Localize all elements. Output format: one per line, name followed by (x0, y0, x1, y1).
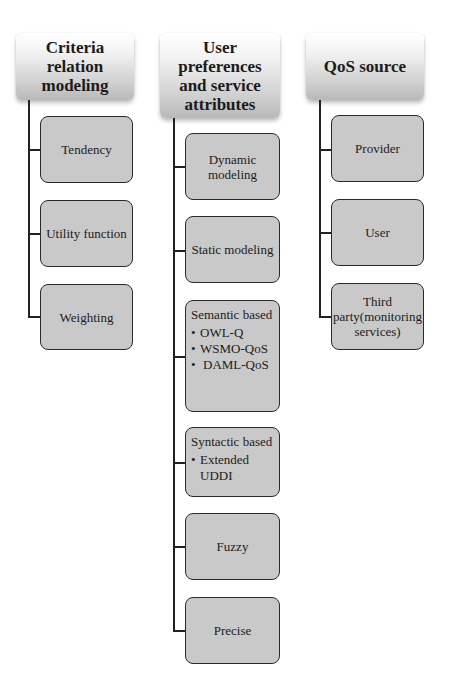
node-syntactic-based: Syntactic based Extended UDDI (185, 427, 280, 497)
node-label: Provider (355, 141, 400, 156)
header-user-preferences-and-service-attributes: User preferences and service attributes (160, 33, 280, 118)
node-utility-function: Utility function (40, 200, 133, 267)
connector-stub (28, 149, 40, 151)
node-label: Third party(monitoring services) (333, 294, 422, 339)
connector-stub (173, 250, 185, 252)
connector-stub (173, 462, 185, 464)
node-label: Syntactic based (191, 434, 272, 450)
connector-stub (28, 316, 40, 318)
node-label: Dynamic modeling (190, 152, 275, 182)
node-third-party: Third party(monitoring services) (331, 283, 424, 350)
header-criteria-relation-modeling: Criteria relation modeling (16, 33, 134, 100)
node-label: Weighting (60, 310, 114, 325)
node-provider: Provider (331, 115, 424, 182)
node-label: Fuzzy (217, 539, 249, 554)
connector-stub (173, 546, 185, 548)
connector-stub (173, 166, 185, 168)
connector-stub (319, 232, 331, 234)
connector-stub (28, 233, 40, 235)
node-weighting: Weighting (40, 284, 133, 350)
node-dynamic-modeling: Dynamic modeling (185, 133, 280, 200)
header-qos-source: QoS source (306, 33, 424, 100)
list-item-extended-uddi: Extended UDDI (191, 452, 260, 484)
node-static-modeling: Static modeling (185, 216, 280, 283)
node-label: Precise (214, 623, 252, 638)
syntactic-list: Extended UDDI (191, 452, 260, 484)
semantic-list: OWL-Q WSMO-QoS DAML-QoS (191, 325, 269, 373)
node-semantic-based: Semantic based OWL-Q WSMO-QoS DAML-QoS (185, 300, 280, 412)
connector-stub (173, 630, 185, 632)
node-tendency: Tendency (40, 116, 133, 183)
header-title: QoS source (324, 57, 406, 76)
list-item-daml-qos: DAML-QoS (191, 357, 269, 373)
connector-line (28, 100, 30, 317)
header-title: Criteria relation modeling (20, 38, 130, 95)
node-label: Semantic based (191, 307, 272, 323)
node-label: Utility function (46, 226, 127, 241)
node-user: User (331, 199, 424, 266)
node-fuzzy: Fuzzy (185, 513, 280, 580)
node-precise: Precise (185, 597, 280, 664)
list-item-wsmo-qos: WSMO-QoS (191, 341, 269, 357)
list-item-owl-q: OWL-Q (191, 325, 269, 341)
connector-stub (319, 316, 331, 318)
connector-line (319, 100, 321, 317)
header-title: User preferences and service attributes (164, 38, 276, 114)
connector-stub (319, 149, 331, 151)
node-label: Tendency (61, 142, 111, 157)
node-label: Static modeling (192, 242, 274, 257)
node-label: User (365, 225, 390, 240)
connector-line (173, 118, 175, 631)
connector-stub (173, 356, 185, 358)
